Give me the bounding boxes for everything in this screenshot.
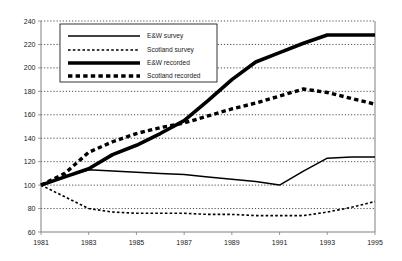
series-line-eandw-survey bbox=[41, 157, 375, 185]
series-line-scotland-survey bbox=[41, 185, 375, 215]
y-tick-label-80: 80 bbox=[28, 205, 36, 212]
y-tick-label-240: 240 bbox=[24, 18, 36, 25]
x-tick-label-1981: 1981 bbox=[33, 239, 49, 246]
y-tick-label-220: 220 bbox=[24, 41, 36, 48]
y-tick-label-200: 200 bbox=[24, 64, 36, 71]
legend-label-eandw-survey: E&W survey bbox=[147, 32, 184, 40]
y-tick-label-140: 140 bbox=[24, 135, 36, 142]
x-tick-label-1987: 1987 bbox=[176, 239, 192, 246]
y-tick-label-160: 160 bbox=[24, 111, 36, 118]
x-tick-label-1985: 1985 bbox=[129, 239, 145, 246]
y-axis-ticks: 6080100120140160180200220240 bbox=[24, 18, 41, 236]
legend: E&W surveyScotland surveyE&W recordedSco… bbox=[60, 24, 217, 82]
legend-label-scotland-recorded: Scotland recorded bbox=[147, 72, 201, 79]
y-tick-label-60: 60 bbox=[28, 229, 36, 236]
y-tick-label-180: 180 bbox=[24, 88, 36, 95]
y-tick-label-120: 120 bbox=[24, 158, 36, 165]
chart-container: 6080100120140160180200220240 19811983198… bbox=[0, 0, 402, 261]
legend-label-eandw-recorded: E&W recorded bbox=[147, 59, 190, 66]
x-tick-label-1995: 1995 bbox=[367, 239, 383, 246]
line-chart: 6080100120140160180200220240 19811983198… bbox=[0, 0, 402, 261]
x-tick-label-1993: 1993 bbox=[319, 239, 335, 246]
x-tick-label-1983: 1983 bbox=[81, 239, 97, 246]
x-tick-label-1991: 1991 bbox=[272, 239, 288, 246]
legend-label-scotland-survey: Scotland survey bbox=[147, 46, 195, 54]
x-axis-ticks: 19811983198519871989199119931995 bbox=[33, 232, 383, 246]
x-tick-label-1989: 1989 bbox=[224, 239, 240, 246]
y-tick-label-100: 100 bbox=[24, 182, 36, 189]
